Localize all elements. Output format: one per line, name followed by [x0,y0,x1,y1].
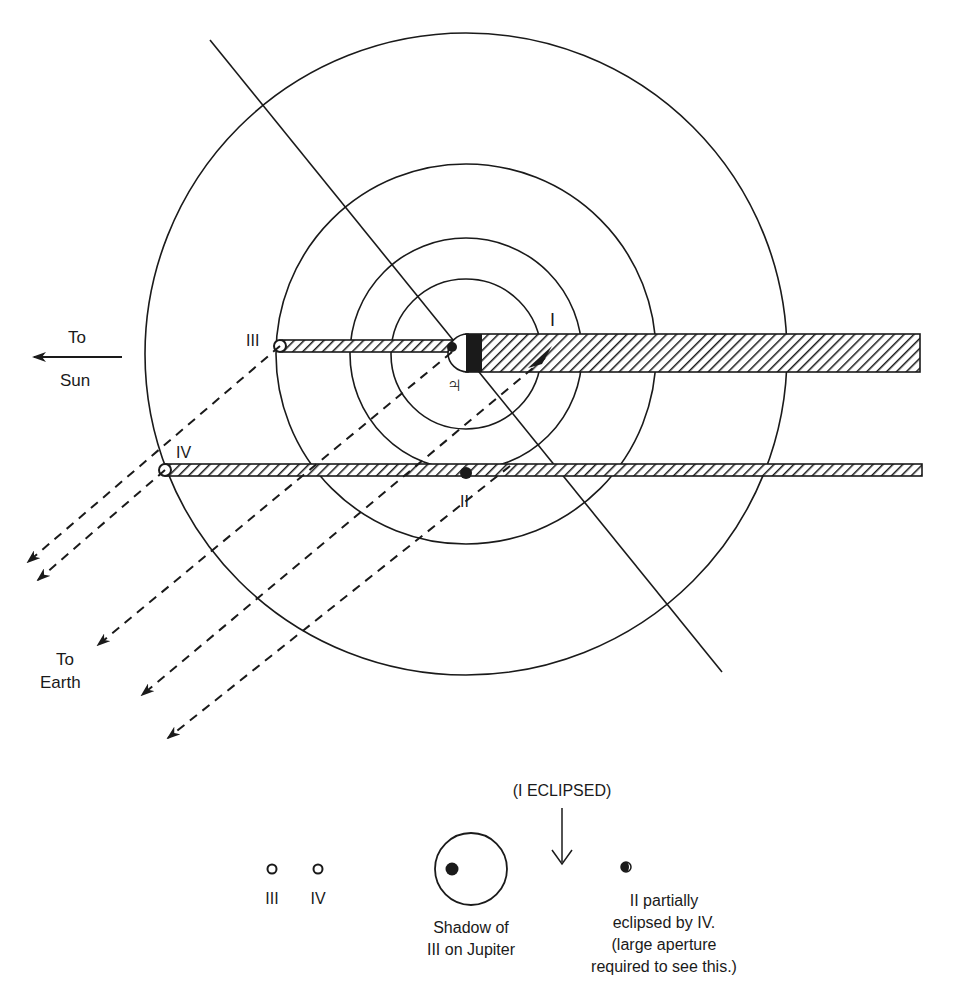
legend-ii-line1: II partially [630,892,698,909]
legend-shadow-line2: III on Jupiter [427,941,516,958]
legend-ii-line4: required to see this.) [591,958,737,975]
label-iv: IV [176,444,191,461]
to-earth-top: To [56,650,74,669]
label-iii: III [246,332,259,349]
legend-i-eclipsed: (I ECLIPSED) [513,782,612,799]
iii-shadow-bar [282,340,454,352]
jupiter-shadow-band [466,334,920,372]
earth-line-i [142,358,545,695]
jupiter-satellite-diagram: III IV II I ♃ To Sun To Earth (I ECLIPSE… [0,0,960,995]
legend-sat-ii-partial-icon [621,862,631,872]
to-earth-lines [28,346,545,738]
label-i: I [550,310,555,330]
iv-shadow-bar [166,464,922,476]
earth-line-iv [38,470,165,580]
earth-line-jupiter [98,352,452,645]
legend-ii-line3: (large aperture [612,936,717,953]
legend: (I ECLIPSED) III IV Shadow of III on Jup… [265,782,737,975]
earth-line-ii [168,466,510,738]
label-ii: II [460,493,469,510]
legend-ii-line2: eclipsed by IV. [613,914,716,931]
legend-shadow-line1: Shadow of [433,919,509,936]
legend-sat-iii-icon [268,865,277,874]
legend-sat-iii-label: III [265,890,278,907]
legend-shadow-iii-icon [446,863,459,876]
satellite-ii [460,467,472,479]
jupiter-symbol: ♃ [446,372,463,397]
legend-sat-iv-label: IV [310,890,325,907]
to-sun-top: To [68,328,86,347]
to-sun-bottom: Sun [60,371,90,390]
legend-sat-iv-icon [314,865,323,874]
to-earth-bottom: Earth [40,673,81,692]
